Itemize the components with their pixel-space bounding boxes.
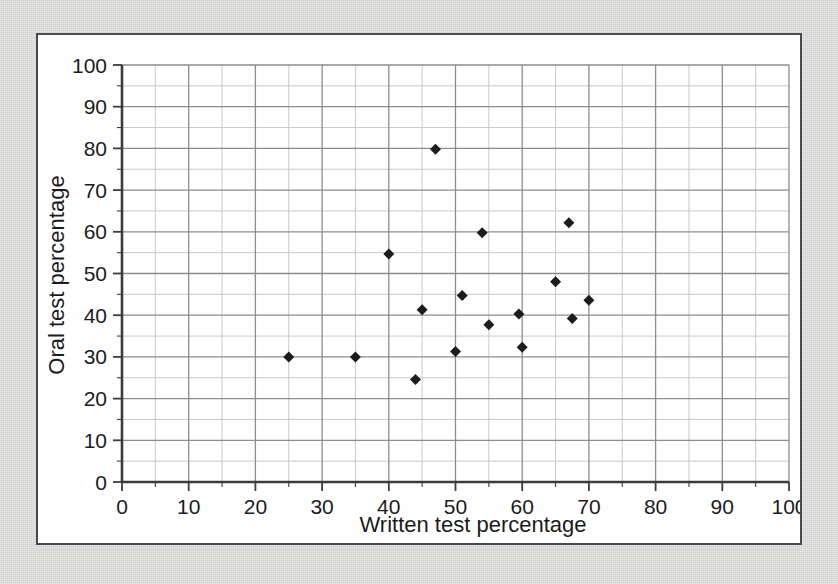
y-tick-label: 0: [95, 471, 107, 494]
y-tick-label: 40: [84, 304, 107, 327]
y-tick-label: 60: [84, 220, 107, 243]
data-point: [383, 248, 394, 259]
y-tick-label: 20: [84, 387, 107, 410]
data-point: [417, 304, 428, 315]
data-point: [410, 374, 421, 385]
figure-card: 0102030405060708090100 01020304050607080…: [36, 33, 802, 545]
data-point: [350, 351, 361, 362]
y-tick-label: 70: [84, 179, 107, 202]
y-tick-label: 90: [84, 95, 107, 118]
x-tick-label: 100: [771, 495, 800, 518]
x-tick-label: 0: [116, 495, 128, 518]
y-tick-label: 80: [84, 137, 107, 160]
data-point: [550, 276, 561, 287]
y-tick-label: 10: [84, 429, 107, 452]
page-background: 0102030405060708090100 01020304050607080…: [0, 0, 838, 584]
x-tick-label: 80: [644, 495, 667, 518]
scatter-plot: 0102030405060708090100 01020304050607080…: [38, 35, 800, 543]
y-tick-label: 50: [84, 262, 107, 285]
x-tick-label: 20: [244, 495, 267, 518]
y-axis-title: Oral test percentage: [44, 175, 69, 374]
data-point: [430, 144, 441, 155]
data-point: [563, 217, 574, 228]
y-tick-label: 30: [84, 345, 107, 368]
x-tick-label: 10: [177, 495, 200, 518]
data-point: [450, 346, 461, 357]
axis-ticks: [113, 65, 789, 491]
data-point: [517, 342, 528, 353]
data-point: [457, 290, 468, 301]
y-tick-labels: 0102030405060708090100: [72, 54, 107, 494]
data-points: [283, 144, 594, 385]
x-axis-title: Written test percentage: [359, 512, 586, 537]
data-point: [583, 295, 594, 306]
data-point: [483, 319, 494, 330]
data-point: [283, 351, 294, 362]
data-point: [477, 227, 488, 238]
x-tick-label: 30: [310, 495, 333, 518]
x-tick-label: 90: [711, 495, 734, 518]
y-tick-label: 100: [72, 54, 107, 77]
